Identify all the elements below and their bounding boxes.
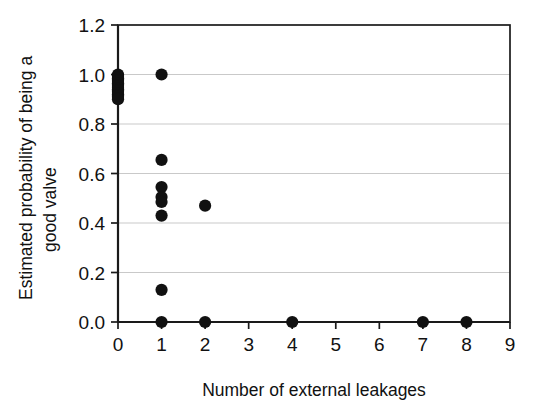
data-point [155, 154, 167, 166]
x-tick-label-8: 8 [461, 334, 472, 355]
data-point [460, 316, 472, 328]
x-tick-label-7: 7 [418, 334, 429, 355]
x-tick-label-3: 3 [243, 334, 254, 355]
y-tick-label-0.6: 0.6 [79, 164, 105, 185]
x-tick-label-2: 2 [200, 334, 211, 355]
x-tick-label-5: 5 [330, 334, 341, 355]
chart-background [0, 0, 535, 409]
data-point [417, 316, 429, 328]
y-tick-label-1.2: 1.2 [79, 15, 105, 36]
y-tick-label-0: 0.0 [79, 312, 105, 333]
data-point [199, 200, 211, 212]
y-tick-label-0.2: 0.2 [79, 263, 105, 284]
x-tick-label-6: 6 [374, 334, 385, 355]
data-point [155, 196, 167, 208]
x-axis-title: Number of external leakages [202, 380, 426, 400]
data-point [199, 316, 211, 328]
x-tick-label-9: 9 [505, 334, 516, 355]
x-tick-label-4: 4 [287, 334, 298, 355]
data-point [155, 284, 167, 296]
y-tick-label-1: 1.0 [79, 65, 105, 86]
y-tick-label-0.8: 0.8 [79, 114, 105, 135]
data-point [155, 209, 167, 221]
data-point [155, 68, 167, 80]
scatter-plot-figure: 0.00.20.40.60.81.01.2 0123456789 Estimat… [0, 0, 535, 409]
x-tick-label-1: 1 [156, 334, 167, 355]
y-axis-title-line1: Estimated probability of being a [16, 56, 36, 300]
data-point [286, 316, 298, 328]
y-axis-title-line2: good valve [40, 167, 60, 252]
data-point [112, 93, 124, 105]
x-tick-label-0: 0 [113, 334, 124, 355]
data-point [155, 316, 167, 328]
chart-canvas: 0.00.20.40.60.81.01.2 0123456789 Estimat… [0, 0, 535, 409]
y-tick-label-0.4: 0.4 [79, 213, 106, 234]
